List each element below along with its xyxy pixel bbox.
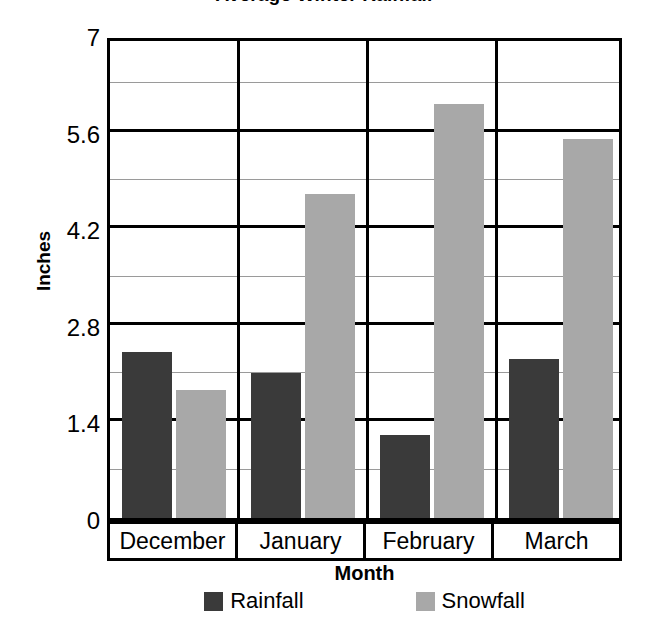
bar-rainfall-february bbox=[380, 435, 430, 518]
y-axis-tick-label: 0 bbox=[8, 509, 100, 533]
y-axis-tick-label: 1.4 bbox=[8, 412, 100, 436]
category-separator bbox=[366, 41, 369, 518]
gridline-minor bbox=[110, 276, 619, 277]
gridline-major bbox=[110, 129, 619, 132]
bar-rainfall-january bbox=[251, 373, 301, 518]
category-separator bbox=[237, 41, 240, 518]
y-axis-tick-label: 5.6 bbox=[8, 123, 100, 147]
y-axis-tick-label: 4.2 bbox=[8, 219, 100, 243]
legend-label: Snowfall bbox=[442, 588, 525, 614]
gridline-minor bbox=[110, 179, 619, 180]
bar-snowfall-march bbox=[563, 139, 613, 519]
plot-area bbox=[107, 38, 622, 521]
x-axis-title: Month bbox=[107, 562, 622, 585]
legend-swatch-icon bbox=[204, 592, 223, 611]
category-separator bbox=[495, 41, 498, 518]
legend-label: Rainfall bbox=[230, 588, 303, 614]
gridline-major bbox=[110, 225, 619, 228]
bar-snowfall-january bbox=[305, 194, 355, 518]
chart-legend: RainfallSnowfall bbox=[107, 588, 622, 614]
bar-snowfall-february bbox=[434, 104, 484, 518]
bar-snowfall-december bbox=[176, 390, 226, 518]
y-axis-tick-labels: 75.64.22.81.40 bbox=[0, 0, 100, 626]
gridline-major bbox=[110, 322, 619, 325]
x-axis-category-label: March bbox=[494, 524, 619, 558]
x-axis-category-band: DecemberJanuaryFebruaryMarch bbox=[107, 521, 622, 561]
x-axis-category-label: December bbox=[110, 524, 238, 558]
bar-rainfall-december bbox=[122, 352, 172, 518]
legend-swatch-icon bbox=[416, 592, 435, 611]
bar-rainfall-march bbox=[509, 359, 559, 518]
gridline-minor bbox=[110, 82, 619, 83]
legend-item-snowfall: Snowfall bbox=[416, 588, 525, 614]
y-axis-tick-label: 7 bbox=[8, 26, 100, 50]
y-axis-tick-label: 2.8 bbox=[8, 316, 100, 340]
plot-inner bbox=[110, 41, 619, 518]
legend-item-rainfall: Rainfall bbox=[204, 588, 303, 614]
bar-chart-figure: Average Winter Rainfall Inches 75.64.22.… bbox=[0, 0, 648, 626]
x-axis-category-label: February bbox=[366, 524, 494, 558]
x-axis-category-label: January bbox=[238, 524, 366, 558]
